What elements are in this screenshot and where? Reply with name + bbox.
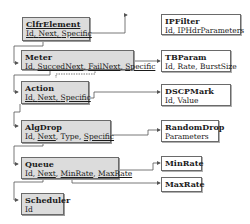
field-maxrate: MaxRate <box>98 169 132 178</box>
dscpmark-box[interactable]: DSCPMark Id, Value <box>161 84 231 106</box>
clfrelement-title: ClfrElement <box>26 19 86 29</box>
field-id: Id <box>26 29 34 38</box>
field-succednext: SuccedNext <box>38 62 84 71</box>
field-failnext: FailNext <box>88 62 120 71</box>
ipfilter-fields: Id, IPHdrParameters <box>165 26 237 36</box>
field-minrate: MinRate <box>61 169 94 178</box>
randomdrop-box[interactable]: RandomDrop Parameters <box>161 120 219 142</box>
meter-fields: Id, SuccedNext, FailNext, Specific <box>25 62 130 72</box>
field-id: Id <box>25 132 33 141</box>
minrate-title: MinRate <box>165 158 198 168</box>
scheduler-fields: Id <box>25 205 60 215</box>
field-id: Id <box>25 93 33 102</box>
maxrate-box[interactable]: MaxRate <box>161 177 202 192</box>
dscpmark-fields: Id, Value <box>165 96 227 106</box>
algdrop-fields: Id, Next, Type, Specific <box>25 132 107 142</box>
field-type: Type <box>61 132 79 141</box>
action-title: Action <box>25 83 85 93</box>
meter-box[interactable]: Meter Id, SuccedNext, FailNext, Specific <box>21 50 134 70</box>
tbparam-title: TBParam <box>165 52 227 62</box>
queue-fields: Id, Next, MinRate, MaxRate <box>25 169 115 179</box>
minrate-box[interactable]: MinRate <box>161 156 202 171</box>
algdrop-box[interactable]: AlgDrop Id, Next, Type, Specific <box>21 120 111 143</box>
randomdrop-title: RandomDrop <box>165 122 215 132</box>
field-specific: Specific <box>62 29 92 38</box>
tbparam-box[interactable]: TBParam Id, Rate, BurstSize <box>161 50 231 72</box>
field-specific: Specific <box>125 62 155 71</box>
ipfilter-title: IPFilter <box>165 16 237 26</box>
field-id: Id <box>25 62 33 71</box>
field-next: Next <box>39 29 57 38</box>
ipfilter-box[interactable]: IPFilter Id, IPHdrParameters <box>161 14 241 35</box>
randomdrop-fields: Parameters <box>165 132 215 142</box>
meter-title: Meter <box>25 52 130 62</box>
maxrate-title: MaxRate <box>165 179 198 189</box>
scheduler-box[interactable]: Scheduler Id <box>21 193 64 215</box>
field-id: Id <box>25 169 33 178</box>
queue-title: Queue <box>25 159 115 169</box>
field-id: Id <box>25 205 33 214</box>
field-next: Next <box>38 93 56 102</box>
clfrelement-fields: Id, Next, Specific <box>26 29 86 39</box>
dscpmark-title: DSCPMark <box>165 86 227 96</box>
tbparam-fields: Id, Rate, BurstSize <box>165 62 227 72</box>
field-next: Next <box>38 132 56 141</box>
algdrop-title: AlgDrop <box>25 122 107 132</box>
field-next: Next <box>38 169 56 178</box>
action-box[interactable]: Action Id, Next, Specific <box>21 81 89 104</box>
field-specific: Specific <box>84 132 114 141</box>
queue-box[interactable]: Queue Id, Next, MinRate, MaxRate <box>21 157 119 179</box>
scheduler-title: Scheduler <box>25 195 60 205</box>
field-specific: Specific <box>61 93 91 102</box>
action-fields: Id, Next, Specific <box>25 93 85 103</box>
clfrelement-box[interactable]: ClfrElement Id, Next, Specific <box>22 17 90 41</box>
